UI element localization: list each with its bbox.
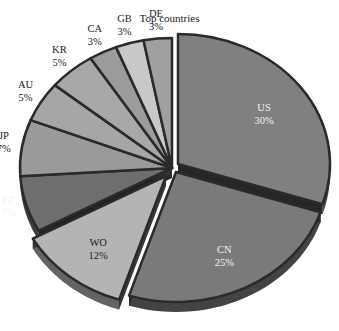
slice-percent-de: 3% xyxy=(149,21,163,32)
slice-label-kr: KR xyxy=(52,44,67,55)
slice-label-de: DE xyxy=(149,8,163,19)
slice-label-au: AU xyxy=(18,79,34,90)
pie-chart: US30%CN25%WO12%EP7%JP7%AU5%KR5%CA3%GB3%D… xyxy=(0,0,339,331)
slice-percent-ca: 3% xyxy=(88,36,102,47)
slice-percent-cn: 25% xyxy=(215,257,235,268)
slice-percent-ep: 7% xyxy=(2,207,16,218)
slice-label-wo: WO xyxy=(89,237,107,248)
slice-label-ep: EP xyxy=(2,194,14,205)
slice-percent-us: 30% xyxy=(254,115,274,126)
slice-label-ca: CA xyxy=(87,23,102,34)
slice-percent-kr: 5% xyxy=(52,57,66,68)
slice-percent-jp: 7% xyxy=(0,143,11,154)
slice-label-jp: JP xyxy=(0,130,9,141)
slice-label-us: US xyxy=(257,102,271,113)
slice-label-gb: GB xyxy=(117,13,132,24)
slice-percent-gb: 3% xyxy=(118,26,132,37)
slice-percent-wo: 12% xyxy=(89,250,109,261)
slice-percent-au: 5% xyxy=(18,92,32,103)
slice-label-cn: CN xyxy=(217,244,232,255)
